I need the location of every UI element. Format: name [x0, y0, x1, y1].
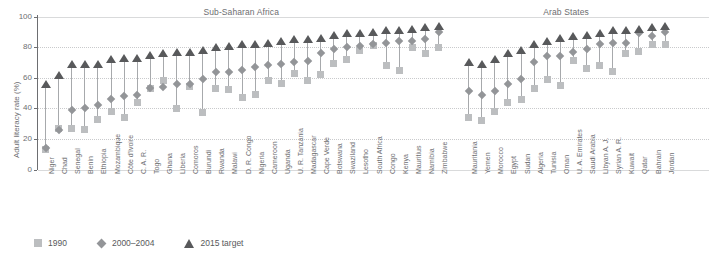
- x-axis-label: Côte d'Ivoire: [127, 135, 134, 174]
- data-point-1990: [68, 125, 75, 132]
- x-axis-label: Liberia: [179, 153, 186, 174]
- data-point-stem: [58, 75, 59, 130]
- data-point-2000-2004: [530, 58, 538, 66]
- data-point-2000-2004: [67, 106, 75, 114]
- data-point-2000-2004: [264, 61, 272, 69]
- data-point-2000-2004: [382, 38, 390, 46]
- data-point-1990: [478, 117, 485, 124]
- data-point-2015-target: [198, 46, 208, 54]
- data-point-2000-2004: [517, 75, 525, 83]
- data-point-2000-2004: [316, 49, 324, 57]
- data-point-2000-2004: [343, 43, 351, 51]
- data-point-1990: [531, 85, 538, 92]
- data-point-2000-2004: [622, 38, 630, 46]
- data-point-2000-2004: [504, 80, 512, 88]
- data-point-2000-2004: [608, 38, 616, 46]
- data-point-2015-target: [608, 26, 618, 34]
- x-axis-label: Egypt: [510, 156, 517, 174]
- data-point-1990: [557, 82, 564, 89]
- data-point-2015-target: [582, 31, 592, 39]
- data-point-stem: [386, 30, 387, 65]
- data-point-2015-target: [237, 40, 247, 48]
- data-point-stem: [84, 64, 85, 130]
- x-axis-label: Ethiopia: [100, 149, 107, 174]
- data-point-1990: [330, 60, 337, 67]
- data-point-stem: [612, 30, 613, 71]
- x-axis-label: Kuwait: [628, 153, 635, 174]
- x-axis-label: C. A. R.: [140, 150, 147, 174]
- legend-item-2015-target: 2015 target: [184, 238, 243, 248]
- x-axis-label: Benin: [87, 156, 94, 174]
- x-axis-label: Congo: [389, 153, 396, 174]
- x-axis-label: Burundi: [205, 150, 212, 174]
- data-point-1990: [199, 109, 206, 116]
- x-axis-label: Ghana: [166, 153, 173, 174]
- x-axis-label: Chad: [61, 157, 68, 174]
- data-point-1990: [570, 57, 577, 64]
- data-point-2000-2004: [421, 35, 429, 43]
- data-point-2000-2004: [329, 44, 337, 52]
- data-point-2015-target: [647, 23, 657, 31]
- data-point-1990: [278, 80, 285, 87]
- x-axis-label: Qatar: [641, 156, 648, 174]
- data-point-2015-target: [276, 37, 286, 45]
- x-axis-label: Algeria: [537, 152, 544, 174]
- data-point-2000-2004: [556, 52, 564, 60]
- data-point-2015-target: [355, 29, 365, 37]
- data-point-1990: [225, 86, 232, 93]
- x-axis-label: Jordan: [668, 153, 675, 174]
- data-point-2015-target: [145, 51, 155, 59]
- data-point-1990: [212, 85, 219, 92]
- x-axis-label: U. A. Emirates: [576, 129, 583, 174]
- x-axis-label: Niger: [48, 157, 55, 174]
- data-point-stem: [71, 64, 72, 128]
- x-axis-label: Kenya: [402, 154, 409, 174]
- data-point-2015-target: [555, 34, 565, 42]
- data-point-2000-2004: [277, 60, 285, 68]
- data-point-2015-target: [106, 55, 116, 63]
- legend-label: 1990: [48, 238, 67, 248]
- square-marker-icon: [34, 239, 42, 247]
- x-axis-label: Botswana: [336, 143, 343, 174]
- legend: 1990 2000–2004 2015 target: [34, 238, 273, 248]
- data-point-1990: [252, 91, 259, 98]
- data-point-2000-2004: [81, 104, 89, 112]
- data-point-2000-2004: [395, 37, 403, 45]
- data-point-1990: [317, 71, 324, 78]
- data-point-2015-target: [80, 60, 90, 68]
- data-point-2000-2004: [251, 63, 259, 71]
- data-point-2015-target: [132, 54, 142, 62]
- data-point-1990: [343, 56, 350, 63]
- data-point-2015-target: [54, 71, 64, 79]
- data-point-2000-2004: [543, 52, 551, 60]
- legend-label: 2015 target: [200, 238, 243, 248]
- x-axis-label: D. R. Congo: [245, 135, 252, 174]
- data-point-stem: [124, 58, 125, 118]
- data-point-1990: [518, 96, 525, 103]
- data-point-2015-target: [303, 35, 313, 43]
- data-point-2015-target: [434, 22, 444, 30]
- data-point-2000-2004: [595, 40, 603, 48]
- data-point-2000-2004: [172, 80, 180, 88]
- triangle-marker-icon: [184, 239, 194, 248]
- data-point-1990: [134, 99, 141, 106]
- x-axis-label: U. R. Tanzania: [297, 128, 304, 174]
- data-point-1990: [81, 126, 88, 133]
- data-point-1990: [422, 50, 429, 57]
- x-axis-label: Bahrain: [655, 150, 662, 174]
- data-point-2015-target: [634, 25, 644, 33]
- data-point-1990: [121, 114, 128, 121]
- diamond-marker-icon: [96, 238, 106, 248]
- x-axis-label: Yemen: [484, 152, 491, 174]
- x-axis-label: Mauritania: [471, 141, 478, 174]
- data-point-2015-target: [342, 29, 352, 37]
- data-point-stem: [45, 84, 46, 150]
- data-point-1990: [596, 62, 603, 69]
- data-point-2000-2004: [238, 66, 246, 74]
- data-point-1990: [435, 44, 442, 51]
- data-point-1990: [622, 50, 629, 57]
- data-point-1990: [239, 94, 246, 101]
- x-axis-label: Madagascar: [310, 135, 317, 174]
- data-point-2015-target: [464, 58, 474, 66]
- data-point-1990: [94, 116, 101, 123]
